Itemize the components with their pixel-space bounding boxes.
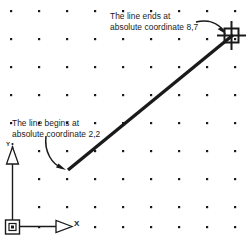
ucs-origin-dot <box>11 226 14 229</box>
end-callout-line1: The line ends at <box>110 11 198 22</box>
start-callout-leader <box>46 136 66 170</box>
start-callout-line1: The line begins at <box>12 118 100 129</box>
start-callout-line2: absolute coordinate 2,2 <box>12 129 100 140</box>
x-axis-arrowhead <box>56 221 72 233</box>
end-callout-line2: absolute coordinate 8,7 <box>110 22 198 33</box>
y-axis-tick <box>11 143 13 145</box>
start-callout-leader-arrowhead <box>56 164 66 171</box>
end-callout-text: The line ends at absolute coordinate 8,7 <box>110 11 198 32</box>
ucs-axis-icon <box>6 143 73 234</box>
end-callout-leader <box>196 21 227 34</box>
y-axis-label: Y <box>6 141 10 147</box>
cad-diagram-canvas: The line ends at absolute coordinate 8,7… <box>0 0 248 239</box>
start-callout-leader-curve <box>46 136 62 168</box>
start-callout-text: The line begins at absolute coordinate 2… <box>12 118 100 139</box>
x-axis-label: X <box>74 219 79 228</box>
drawn-line[interactable] <box>68 35 233 170</box>
y-axis-arrowhead <box>7 147 19 164</box>
